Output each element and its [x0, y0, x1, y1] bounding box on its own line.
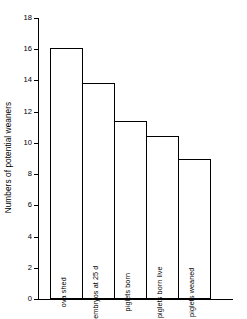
bar: ova shed — [50, 48, 83, 299]
bar: piglets born — [114, 121, 147, 299]
bar: piglets born live — [146, 136, 179, 299]
tick-mark — [34, 143, 39, 144]
bar-label-wrap: piglets born — [115, 122, 146, 298]
tick-mark — [34, 49, 39, 50]
tick-mark — [34, 237, 39, 238]
tick-mark — [34, 174, 39, 175]
plot-area: 024681012141618 ova shedembryos at 25 dp… — [38, 18, 233, 300]
bar-category-label: embryos at 25 d — [91, 265, 98, 318]
tick-label: 6 — [28, 202, 32, 210]
bar-category-label: ova shed — [59, 277, 66, 307]
tick-label: 2 — [28, 264, 32, 272]
tick-mark — [34, 112, 39, 113]
x-axis-line — [38, 299, 233, 300]
bar-category-label: piglets weaned — [187, 267, 194, 316]
tick-mark — [34, 18, 39, 19]
bar-category-label: piglets born — [123, 273, 130, 311]
tick-mark — [34, 268, 39, 269]
bar: piglets weaned — [178, 159, 211, 299]
tick-label: 4 — [28, 233, 32, 241]
bar-label-wrap: piglets weaned — [179, 160, 210, 298]
tick-label: 10 — [24, 139, 32, 147]
tick-label: 16 — [24, 45, 32, 53]
tick-mark — [34, 80, 39, 81]
tick-label: 12 — [24, 108, 32, 116]
y-axis-title: Numbers of potential weaners — [0, 0, 16, 315]
tick-label: 0 — [28, 295, 32, 303]
bar-label-wrap: embryos at 25 d — [83, 84, 114, 298]
tick-label: 8 — [28, 170, 32, 178]
bar-category-label: piglets born live — [155, 266, 162, 318]
bar: embryos at 25 d — [82, 83, 115, 299]
y-axis-line — [38, 18, 39, 300]
tick-mark — [34, 205, 39, 206]
tick-mark — [34, 299, 39, 300]
tick-label: 14 — [24, 77, 32, 85]
bar-label-wrap: ova shed — [51, 49, 82, 298]
tick-label: 18 — [24, 14, 32, 22]
bar-label-wrap: piglets born live — [147, 137, 178, 298]
